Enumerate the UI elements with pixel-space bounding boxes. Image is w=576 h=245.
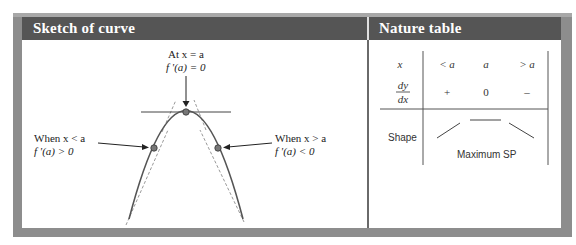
- table-caption-maximum: Maximum SP: [457, 148, 516, 161]
- label-right-line1: When x > a: [275, 132, 326, 145]
- table-shape-label: Shape: [388, 131, 417, 144]
- shape-rising: [437, 123, 460, 138]
- table-sign-zero: 0: [471, 86, 501, 98]
- label-left-line2: f '(a) > 0: [34, 145, 73, 158]
- point-maximum: [183, 109, 189, 115]
- table-sign-minus: –: [512, 86, 542, 98]
- table-x-greater: > a: [512, 58, 542, 70]
- table-x-equal: a: [471, 58, 501, 70]
- point-left: [151, 145, 157, 151]
- arrow-left: [98, 143, 144, 147]
- label-right-line2: f '(a) < 0: [275, 145, 314, 158]
- arrow-right: [228, 143, 272, 147]
- table-header-x: x: [390, 58, 410, 70]
- table-dy: dy: [392, 79, 414, 91]
- table-dx: dx: [392, 93, 414, 105]
- shape-falling: [509, 123, 534, 138]
- arrow-right-head: [223, 144, 230, 150]
- table-x-less: < a: [432, 58, 462, 70]
- table-sign-plus: +: [432, 86, 462, 98]
- tangent-left-lower: [126, 130, 168, 225]
- label-left-line1: When x < a: [34, 132, 85, 145]
- arrow-top-head: [183, 101, 190, 107]
- arrow-left-head: [142, 144, 149, 150]
- parabola-curve: [129, 111, 243, 220]
- curve-diagram: [0, 0, 576, 245]
- label-top-line2: f '(a) = 0: [166, 61, 205, 74]
- label-top-line1: At x = a: [168, 48, 204, 61]
- point-right: [215, 145, 221, 151]
- tangent-right-lower: [200, 130, 244, 222]
- tangent-right-upper: [194, 100, 206, 130]
